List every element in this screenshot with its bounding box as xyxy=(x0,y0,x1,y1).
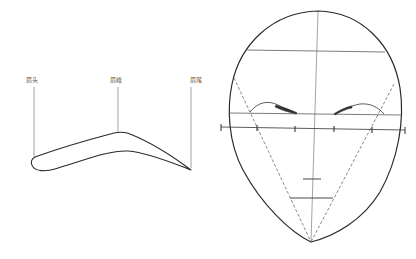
center-line xyxy=(311,11,318,242)
forehead-line xyxy=(247,50,385,52)
eyebrow-structure: 眉头 眉峰 眉尾 xyxy=(26,76,202,171)
eye-ruler-line xyxy=(221,127,405,130)
label-brow-peak: 眉峰 xyxy=(110,76,122,84)
face-proportion xyxy=(221,11,405,242)
eyebrow-shape xyxy=(31,132,191,170)
face-eyebrow-right xyxy=(334,104,384,114)
face-outline xyxy=(229,11,401,242)
label-brow-head: 眉头 xyxy=(26,76,38,84)
label-brow-tail: 眉尾 xyxy=(190,76,202,84)
face-eyebrow-right-fill xyxy=(334,106,352,115)
eyebrow-proportion-diagram: 眉头 眉峰 眉尾 xyxy=(0,0,416,259)
face-eyebrow-left-fill xyxy=(275,105,297,114)
brow-line xyxy=(229,113,402,115)
dashed-line-right xyxy=(311,84,394,242)
